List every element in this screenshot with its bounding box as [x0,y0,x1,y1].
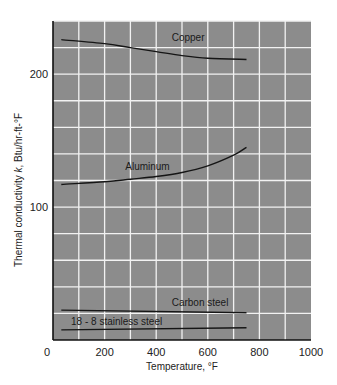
curve-label: Copper [172,32,205,43]
x-tick-label: 800 [250,346,268,358]
y-tick-label: 100 [30,201,48,213]
curve-label: Aluminum [125,161,169,172]
y-axis-label: Thermal conductivity k, Btu/hr-ft-°F [13,113,24,267]
x-tick-label: 0 [44,346,50,358]
y-axis-label-part-2: , Btu/hr-ft-°F [13,113,24,168]
curve-label: Carbon steel [172,297,229,308]
x-tick-label: 200 [95,346,113,358]
y-tick-labels: 100200 [30,68,48,213]
thermal-conductivity-chart: CopperAluminumCarbon steel18 - 8 stainle… [0,0,337,385]
x-tick-label: 1000 [299,346,323,358]
y-tick-label: 200 [30,68,48,80]
y-axis-label-part-1: Thermal conductivity [13,173,24,267]
curve-label: 18 - 8 stainless steel [71,316,162,327]
x-tick-labels: 02004006008001000 [44,346,323,358]
x-axis-label: Temperature, °F [146,361,218,372]
x-tick-label: 400 [147,346,165,358]
x-tick-label: 600 [199,346,217,358]
